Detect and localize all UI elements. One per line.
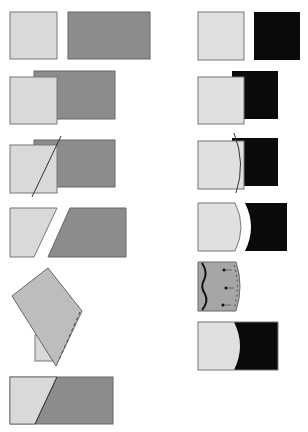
step-L2 <box>10 71 115 124</box>
step-L1 <box>10 12 150 59</box>
finished-light <box>198 322 240 370</box>
flipped-light-piece <box>12 268 82 366</box>
step-L4 <box>10 208 126 257</box>
step-L6 <box>10 377 113 424</box>
black-square <box>254 12 300 60</box>
step-R5 <box>198 262 240 311</box>
step-L5 <box>12 268 82 366</box>
medium-rectangle <box>68 12 150 59</box>
step-R6 <box>198 322 278 370</box>
step-R2 <box>198 71 278 124</box>
light-square <box>198 141 244 189</box>
light-square <box>198 77 244 124</box>
light-square <box>198 12 244 60</box>
black-concave-piece <box>245 203 287 251</box>
step-L3 <box>10 136 115 197</box>
seam-diagram <box>0 0 308 432</box>
step-R3 <box>198 133 278 193</box>
light-trapezoid <box>10 208 57 257</box>
light-square <box>10 77 57 124</box>
step-R4 <box>198 203 287 251</box>
medium-parallelogram <box>48 208 126 257</box>
light-square <box>10 145 57 193</box>
light-convex-piece <box>198 203 241 251</box>
step-R1 <box>198 12 300 60</box>
light-square <box>10 12 57 59</box>
